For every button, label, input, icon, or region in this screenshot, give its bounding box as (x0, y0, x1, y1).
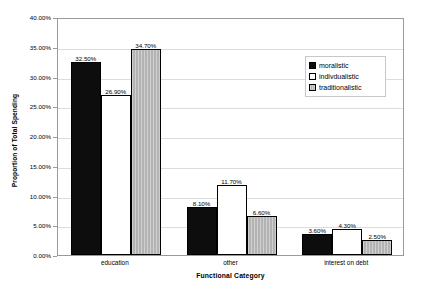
y-axis-tick-label: 5.00% (33, 223, 51, 229)
x-axis: educationotherinterest on debt (57, 259, 404, 273)
y-axis-tick-mark (53, 256, 57, 257)
bar-value-label: 8.10% (182, 200, 222, 207)
bar-value-label: 26.90% (96, 88, 136, 95)
bar-value-label: 34.70% (126, 42, 166, 49)
y-axis: 0.00%5.00%10.00%15.00%20.00%25.00%30.00%… (0, 18, 54, 256)
legend-item-traditionalistic: traditionalistic (309, 82, 381, 93)
y-axis-tick-label: 40.00% (30, 15, 51, 21)
x-axis-title: Functional Category (57, 272, 404, 279)
y-axis-tick-label: 20.00% (30, 134, 51, 140)
legend-swatch-icon (309, 73, 316, 80)
x-axis-tick-label: education (57, 259, 173, 267)
bar-moralistic-interest-on-debt (302, 234, 332, 255)
bar-moralistic-other (187, 207, 217, 255)
bar-traditionalistic-education (131, 49, 161, 255)
x-axis-tick-label: other (173, 259, 289, 267)
bar-value-label: 32.50% (66, 55, 106, 62)
bar-value-label: 4.30% (327, 222, 367, 229)
bar-indivdualistic-other (217, 185, 247, 255)
legend-item-indivdualistic: indivdualistic (309, 71, 381, 82)
bar-value-label: 11.70% (212, 178, 252, 185)
y-axis-tick-label: 25.00% (30, 104, 51, 110)
legend-label: moralistic (319, 62, 349, 70)
bar-value-label: 6.60% (242, 209, 282, 216)
y-axis-tick-label: 10.00% (30, 194, 51, 200)
legend-label: indivdualistic (319, 73, 359, 81)
legend-swatch-icon (309, 84, 316, 91)
bar-indivdualistic-education (101, 95, 131, 255)
plot-area: 32.50%26.90%34.70%8.10%11.70%6.60%3.60%4… (57, 18, 404, 256)
gridline (58, 49, 403, 50)
bar-value-label: 2.50% (357, 233, 397, 240)
y-axis-tick-label: 15.00% (30, 164, 51, 170)
bar-traditionalistic-interest-on-debt (362, 240, 392, 255)
y-axis-tick-label: 0.00% (33, 253, 51, 259)
bar-chart: Proportion of Total Spending 0.00%5.00%1… (0, 0, 428, 299)
bar-traditionalistic-other (247, 216, 277, 255)
legend-swatch-icon (309, 62, 316, 69)
legend-label: traditionalistic (319, 84, 361, 92)
x-axis-tick-label: interest on debt (288, 259, 404, 267)
chart-legend: moralisticindivdualistictraditionalistic (305, 56, 386, 97)
legend-item-moralistic: moralistic (309, 60, 381, 71)
y-axis-tick-label: 30.00% (30, 75, 51, 81)
y-axis-tick-label: 35.00% (30, 45, 51, 51)
